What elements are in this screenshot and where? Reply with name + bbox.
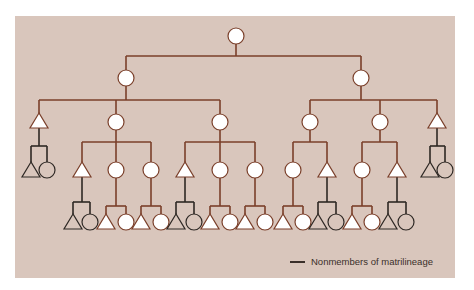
male-member-icon — [97, 214, 115, 229]
male-member-icon — [176, 162, 194, 177]
legend-label: Nonmembers of matrilineage — [311, 256, 433, 267]
female-nonmember-icon — [437, 162, 453, 178]
female-member-icon — [257, 214, 273, 230]
nonmember-line-swatch-icon — [290, 261, 305, 263]
female-member-icon — [118, 214, 134, 230]
female-member-icon — [302, 114, 318, 130]
female-nonmember-icon — [39, 162, 55, 178]
female-member-icon — [212, 114, 228, 130]
male-member-icon — [428, 113, 446, 128]
male-nonmember-icon — [22, 162, 40, 177]
female-member-icon — [354, 162, 370, 178]
female-nonmember-icon — [82, 214, 98, 230]
male-member-icon — [388, 162, 406, 177]
female-member-icon — [372, 114, 388, 130]
male-member-icon — [132, 214, 150, 229]
female-member-icon — [118, 70, 134, 86]
male-nonmember-icon — [379, 214, 397, 229]
male-member-icon — [73, 162, 91, 177]
male-member-icon — [343, 214, 361, 229]
female-member-icon — [295, 214, 311, 230]
matrilineage-kinship-diagram — [0, 0, 474, 290]
male-nonmember-icon — [64, 214, 82, 229]
nonmember-lines — [31, 128, 445, 214]
female-member-icon — [247, 162, 263, 178]
female-member-icon — [108, 162, 124, 178]
male-nonmember-icon — [167, 214, 185, 229]
male-nonmember-icon — [309, 214, 327, 229]
female-member-icon — [353, 70, 369, 86]
male-nonmember-icon — [421, 162, 439, 177]
male-member-icon — [236, 214, 254, 229]
female-member-icon — [143, 162, 159, 178]
female-member-icon — [228, 28, 244, 44]
female-member-icon — [153, 214, 169, 230]
female-member-icon — [212, 162, 228, 178]
legend: Nonmembers of matrilineage — [290, 256, 433, 267]
female-nonmember-icon — [398, 214, 414, 230]
female-nonmember-icon — [186, 214, 202, 230]
female-member-icon — [285, 162, 301, 178]
male-member-icon — [201, 214, 219, 229]
member-symbols — [30, 28, 446, 230]
female-member-icon — [222, 214, 238, 230]
female-member-icon — [364, 214, 380, 230]
female-nonmember-icon — [328, 214, 344, 230]
male-member-icon — [274, 214, 292, 229]
female-member-icon — [108, 114, 124, 130]
male-member-icon — [30, 113, 48, 128]
male-member-icon — [318, 162, 336, 177]
